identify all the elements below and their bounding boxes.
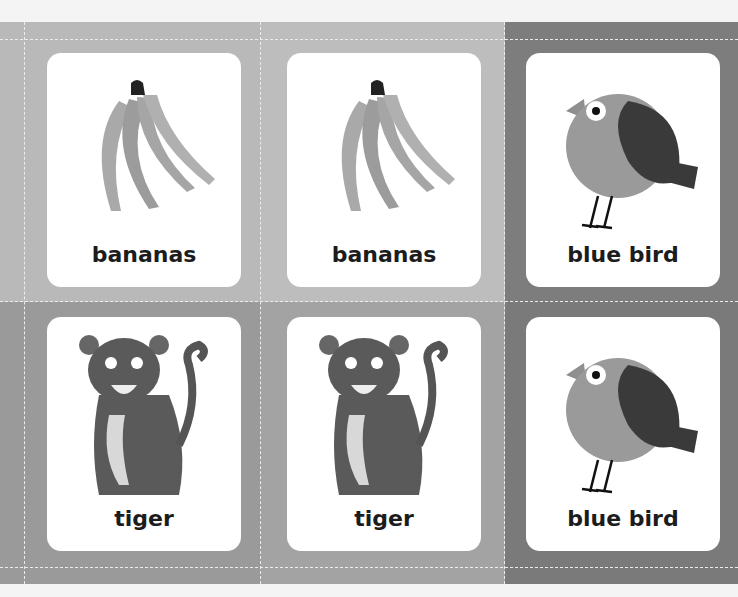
card-label: bananas — [287, 242, 481, 267]
card-label: tiger — [287, 506, 481, 531]
bird-icon — [548, 335, 698, 495]
cut-line — [24, 22, 25, 584]
flashcard-bananas[interactable]: bananas — [287, 53, 481, 287]
bananas-icon — [69, 71, 219, 231]
cut-line — [0, 567, 738, 568]
flashcard-sheet: bananas bananas blue bird — [0, 22, 738, 584]
cut-line — [0, 301, 738, 302]
card-label: bananas — [47, 242, 241, 267]
bird-icon — [548, 71, 698, 231]
card-label: blue bird — [526, 242, 720, 267]
flashcard-blue-bird[interactable]: blue bird — [526, 317, 720, 551]
flashcard-tiger[interactable]: tiger — [287, 317, 481, 551]
tiger-icon — [309, 335, 459, 495]
flashcard-bananas[interactable]: bananas — [47, 53, 241, 287]
cut-line — [260, 22, 261, 584]
card-label: tiger — [47, 506, 241, 531]
card-label: blue bird — [526, 506, 720, 531]
tiger-icon — [69, 335, 219, 495]
cut-line — [504, 22, 505, 584]
cut-line — [0, 39, 738, 40]
bananas-icon — [309, 71, 459, 231]
flashcard-tiger[interactable]: tiger — [47, 317, 241, 551]
flashcard-blue-bird[interactable]: blue bird — [526, 53, 720, 287]
